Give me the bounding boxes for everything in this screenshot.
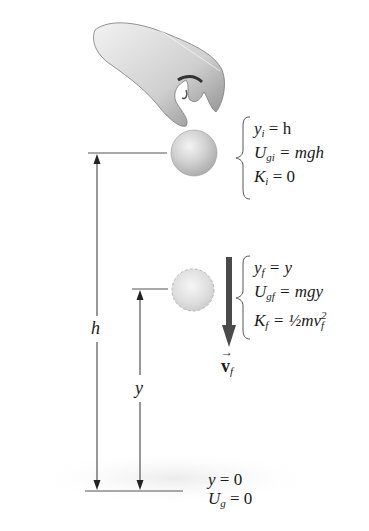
initial-state-equations: yi = h Ugi = mgh Ki = 0 [254, 119, 324, 191]
energy-diagram: yi = h Ugi = mgh Ki = 0 yf = y Ugf = mgy… [0, 0, 369, 531]
height-label-h: h [91, 318, 100, 339]
velocity-label: → vf [221, 356, 233, 377]
eq-initial-position: yi = h [254, 119, 324, 143]
eq-final-potential: Ugf = mgy [254, 282, 327, 306]
eq-ground-position: y = 0 [208, 470, 252, 489]
eq-initial-potential: Ugi = mgh [254, 143, 324, 167]
vector-arrow-icon: → [221, 345, 233, 360]
eq-initial-kinetic: Ki = 0 [254, 167, 324, 191]
ball-final [172, 269, 214, 311]
eq-ground-potential: Ug = 0 [208, 489, 252, 513]
brace-final [236, 256, 250, 339]
eq-final-position: yf = y [254, 258, 327, 282]
ground-shadow [30, 450, 320, 506]
height-label-y: y [135, 378, 143, 399]
eq-final-kinetic: Kf = ½mvf2 [254, 306, 327, 335]
brace-initial [236, 117, 250, 199]
velocity-arrow [222, 257, 236, 347]
hand-icon [93, 0, 224, 126]
final-state-equations: yf = y Ugf = mgy Kf = ½mvf2 [254, 258, 327, 335]
ground-equations: y = 0 Ug = 0 [208, 470, 252, 513]
ball-initial [171, 130, 217, 176]
